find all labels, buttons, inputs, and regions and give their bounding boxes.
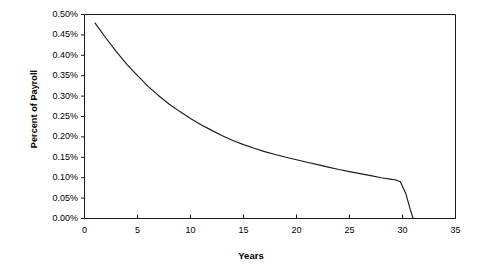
x-axis-title-text: Years	[238, 250, 263, 261]
axes-lines	[85, 15, 456, 219]
plot-area	[0, 0, 486, 279]
axis-ticks	[81, 15, 456, 219]
chart-container: Percent of Payroll 0.00%0.05%0.10%0.15%0…	[0, 0, 486, 279]
data-series	[95, 23, 413, 218]
x-axis-title: Years	[0, 250, 486, 261]
